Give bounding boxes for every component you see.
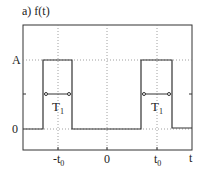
plot-frame: [23, 25, 192, 150]
t1-main: T: [52, 99, 60, 114]
x-label-t0-sub: 0: [157, 159, 161, 168]
x-label-zero: 0: [104, 153, 110, 165]
grid-lines: [23, 25, 192, 150]
tick-marks: [23, 94, 192, 150]
plot-canvas: [0, 0, 203, 171]
t1-sub: 1: [60, 107, 64, 116]
x-axis-label: t: [189, 152, 192, 164]
plot-title: a) f(t): [22, 5, 50, 17]
pulse-width-label-right: T1: [151, 101, 163, 118]
x-label-neg-t0: -t0: [53, 153, 64, 170]
t1-main: T: [151, 99, 159, 114]
pulse-width-arrow-left: [44, 93, 71, 96]
pulse-width-arrow-right: [142, 93, 171, 96]
t1-sub: 1: [159, 107, 163, 116]
y-label-zero: 0: [12, 123, 18, 135]
x-label-t0: t0: [154, 153, 161, 170]
y-label-A: A: [12, 54, 21, 66]
x-label-neg-t0-sub: 0: [60, 159, 64, 168]
pulse-width-label-left: T1: [52, 101, 64, 118]
